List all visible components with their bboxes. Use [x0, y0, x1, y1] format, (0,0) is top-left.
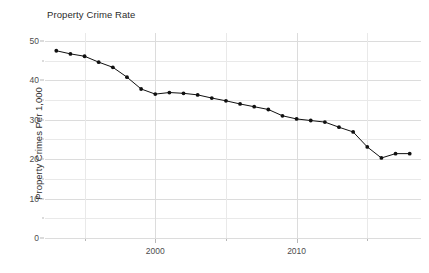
series-line: [56, 51, 409, 158]
chart-title: Property Crime Rate: [47, 9, 135, 20]
data-point-marker: [337, 125, 341, 129]
y-axis-tick-mark-minor: [42, 139, 44, 140]
data-point-marker: [69, 52, 73, 56]
data-point-marker: [182, 91, 186, 95]
data-point-marker: [139, 87, 143, 91]
y-axis-tick-label: 40: [30, 75, 39, 85]
gridline-horizontal-major: [45, 238, 421, 239]
y-axis-tick-mark-minor: [42, 178, 44, 179]
y-axis-tick-mark: [40, 238, 44, 239]
x-axis-tick-mark-minor: [367, 239, 368, 241]
x-axis-tick-mark: [297, 239, 298, 243]
data-point-marker: [167, 91, 171, 95]
data-point-marker: [408, 152, 412, 156]
data-point-marker: [394, 152, 398, 156]
y-axis-tick-mark: [40, 159, 44, 160]
y-axis-tick-mark: [40, 198, 44, 199]
data-point-marker: [125, 75, 129, 79]
data-point-marker: [323, 120, 327, 124]
x-axis-tick-mark-minor: [85, 239, 86, 241]
plot-area: 01020304050 20002010: [45, 33, 421, 238]
data-point-marker: [309, 119, 313, 123]
data-series-line: [45, 33, 421, 238]
data-point-marker: [224, 99, 228, 103]
x-axis-tick-label: 2010: [287, 246, 306, 256]
y-axis-tick-mark-minor: [42, 100, 44, 101]
data-point-marker: [266, 108, 270, 112]
data-point-marker: [210, 96, 214, 100]
data-point-marker: [97, 60, 101, 64]
data-point-marker: [238, 102, 242, 106]
data-point-marker: [196, 93, 200, 97]
data-point-marker: [365, 145, 369, 149]
y-axis-title: Property Crimes Per 1,000: [33, 44, 44, 244]
data-point-marker: [281, 114, 285, 118]
y-axis-tick-label: 20: [30, 154, 39, 164]
data-point-marker: [252, 105, 256, 109]
y-axis-tick-mark: [40, 119, 44, 120]
data-point-marker: [153, 92, 157, 96]
y-axis-tick-mark-minor: [42, 218, 44, 219]
data-point-marker: [351, 130, 355, 134]
data-point-marker: [111, 65, 115, 69]
data-point-marker: [54, 49, 58, 53]
y-axis-tick-mark: [40, 40, 44, 41]
data-point-marker: [295, 117, 299, 121]
data-point-marker: [83, 54, 87, 58]
data-point-marker: [380, 156, 384, 160]
y-axis-tick-label: 50: [30, 36, 39, 46]
x-axis-tick-mark: [155, 239, 156, 243]
chart-figure: Property Crime Rate Property Crimes Per …: [0, 0, 429, 273]
x-axis-tick-mark-minor: [226, 239, 227, 241]
y-axis-tick-mark: [40, 80, 44, 81]
y-axis-tick-mark-minor: [42, 60, 44, 61]
y-axis-tick-label: 0: [34, 233, 39, 243]
y-axis-tick-label: 30: [30, 115, 39, 125]
y-axis-tick-label: 10: [30, 194, 39, 204]
x-axis-tick-label: 2000: [146, 246, 165, 256]
